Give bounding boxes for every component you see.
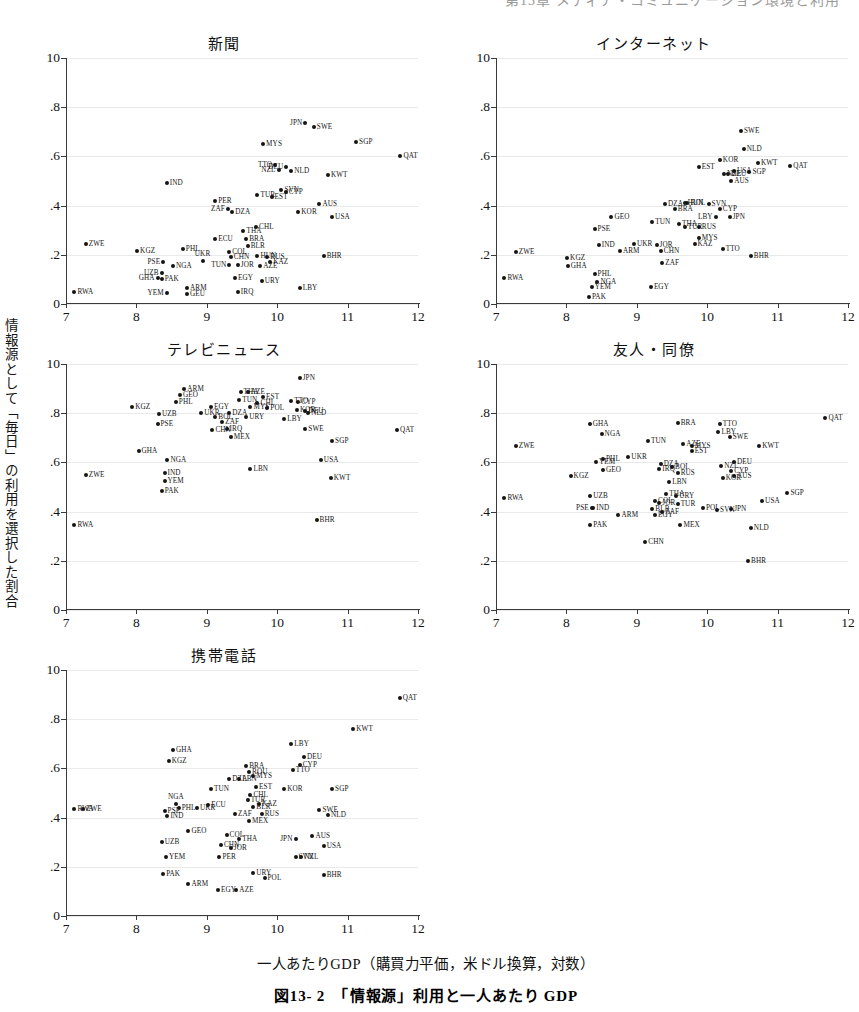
data-point-label: PHL <box>179 399 193 406</box>
y-axis-line <box>496 58 497 304</box>
y-axis-tick-label: .6 <box>50 454 60 470</box>
data-point-label: SWE <box>733 433 748 440</box>
data-point-label: KWT <box>761 159 778 166</box>
data-point-marker <box>160 840 164 844</box>
data-point-label: NGA <box>600 279 616 286</box>
data-point-marker <box>265 406 269 410</box>
data-point-marker <box>185 286 189 290</box>
data-point-label: GHA <box>593 421 609 428</box>
data-point-label: LBY <box>287 416 302 423</box>
data-point-label: USA <box>327 843 342 850</box>
data-point-label: UKR <box>631 454 646 461</box>
y-axis-tick-label: 0 <box>53 296 60 312</box>
data-point-label: JPN <box>734 506 746 513</box>
y-axis-tick-label: .8 <box>50 99 60 115</box>
data-point-label: JPN <box>733 213 745 220</box>
data-point-marker <box>306 411 310 415</box>
data-point-marker <box>177 806 181 810</box>
data-point-label: AZE <box>239 887 253 894</box>
gridline <box>66 610 418 611</box>
x-axis-tick <box>136 304 137 308</box>
data-point-marker <box>746 559 750 563</box>
data-point-label: GHA <box>571 263 587 270</box>
y-axis-tick-label: 10 <box>47 662 61 678</box>
data-point-marker <box>742 147 746 151</box>
data-point-label: PSE <box>576 505 589 512</box>
data-point-marker <box>135 249 139 253</box>
data-point-marker <box>291 768 295 772</box>
data-point-label: ARM <box>621 512 638 519</box>
data-point-label: UZB <box>165 839 180 846</box>
data-point-marker <box>257 802 261 806</box>
data-point-marker <box>160 277 164 281</box>
x-axis-tick-label: 7 <box>493 615 500 631</box>
data-point-marker <box>230 210 234 214</box>
data-point-label: LBY <box>303 285 318 292</box>
data-point-marker <box>597 243 601 247</box>
gridline <box>66 58 418 59</box>
data-point-marker <box>676 421 680 425</box>
data-point-marker <box>728 435 732 439</box>
data-point-label: KOR <box>726 475 741 482</box>
figure-caption: 図13- 2 「情報源」利用と一人あたり GDP <box>0 984 852 1005</box>
y-axis-line <box>496 364 497 610</box>
data-point-marker <box>729 469 733 473</box>
data-point-label: IND <box>602 242 615 249</box>
data-point-marker <box>681 442 685 446</box>
data-point-marker <box>649 285 653 289</box>
data-point-label: UZB <box>162 411 177 418</box>
data-point-marker <box>241 229 245 233</box>
data-point-marker <box>160 489 164 493</box>
data-point-label: GEO <box>191 828 206 835</box>
data-point-marker <box>588 523 592 527</box>
y-axis-tick-label: 10 <box>477 50 491 66</box>
data-point-label: PAK <box>592 293 606 300</box>
data-point-marker <box>595 280 599 284</box>
data-point-marker <box>219 843 223 847</box>
x-axis-tick-label: 7 <box>63 921 70 937</box>
data-point-label: EGY <box>658 512 673 519</box>
gridline <box>66 768 418 769</box>
data-point-marker <box>690 444 694 448</box>
data-point-label: ZAF <box>665 260 679 267</box>
data-point-marker <box>395 428 399 432</box>
x-axis-tick-label: 12 <box>411 615 425 631</box>
data-point-marker <box>788 164 792 168</box>
data-point-marker <box>317 808 321 812</box>
gridline <box>66 206 418 207</box>
data-point-marker <box>302 755 306 759</box>
data-point-marker <box>670 465 674 469</box>
data-point-label: TUN <box>655 218 670 225</box>
data-point-label: KAZ <box>273 259 288 266</box>
plot-area: 0.2.4.6.810789101112RWAZWEKGZGHAYEMPAKNG… <box>496 58 848 304</box>
y-axis-tick-label: .8 <box>50 711 60 727</box>
x-axis-tick-label: 9 <box>203 309 210 325</box>
y-axis-tick-label: .4 <box>50 810 60 826</box>
x-axis-tick <box>496 610 497 614</box>
data-point-marker <box>130 405 134 409</box>
x-axis-tick-label: 8 <box>133 615 140 631</box>
gridline <box>66 561 418 562</box>
data-point-label: ZWE <box>89 471 105 478</box>
data-point-marker <box>282 417 286 421</box>
data-point-label: KGZ <box>135 404 150 411</box>
data-point-marker <box>182 387 186 391</box>
gridline <box>66 867 418 868</box>
data-point-label: MYS <box>256 773 272 780</box>
data-point-marker <box>251 805 255 809</box>
x-axis-tick-label: 9 <box>633 615 640 631</box>
x-axis-tick <box>66 916 67 920</box>
data-point-label: GEO <box>606 467 621 474</box>
data-point-label: PAK <box>165 487 179 494</box>
data-point-label: MEX <box>683 522 699 529</box>
data-point-marker <box>600 432 604 436</box>
x-axis-tick <box>66 304 67 308</box>
x-axis-tick <box>277 916 278 920</box>
plot-area: 0.2.4.6.810789101112RWAZWEKGZGHAUZBPAKPS… <box>66 58 418 304</box>
x-axis-tick-label: 8 <box>563 615 570 631</box>
data-point-marker <box>319 458 323 462</box>
y-axis-line <box>66 364 67 610</box>
data-point-label: JPN <box>290 120 302 127</box>
data-point-label: PSE <box>598 226 611 233</box>
y-axis-tick-label: .2 <box>50 859 60 875</box>
